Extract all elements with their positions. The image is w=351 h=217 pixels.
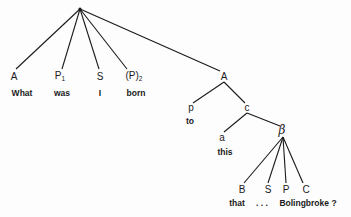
node-label-n-beta: β <box>279 124 286 136</box>
node-subscript: 1 <box>62 75 66 82</box>
word-w-that: that <box>229 199 245 208</box>
node-label-n-P2: (P)2 <box>126 71 143 83</box>
node-label-n-S1: S <box>97 72 104 82</box>
node-text: β <box>279 123 286 137</box>
node-label-n-p: p <box>188 103 194 113</box>
tree-edge <box>80 9 99 69</box>
word-w-born: born <box>127 89 146 98</box>
tree-edge <box>247 113 280 126</box>
tree-edges <box>0 0 351 217</box>
tree-edge <box>244 137 283 183</box>
word-w-to: to <box>186 117 194 126</box>
node-text: P <box>283 184 290 195</box>
node-label-n-S2: S <box>265 185 272 195</box>
node-text: P <box>55 70 62 81</box>
node-label-n-P3: P <box>283 185 290 195</box>
node-subscript: 2 <box>139 75 143 82</box>
node-text: A <box>221 71 228 82</box>
word-w-what: What <box>12 89 33 98</box>
tree-edge <box>268 137 283 183</box>
node-text: S <box>97 71 104 82</box>
tree-edge <box>193 82 224 103</box>
node-label-n-A2: A <box>221 72 228 82</box>
word-w-i: I <box>99 89 101 98</box>
node-label-n-c: c <box>245 103 250 113</box>
node-text: c <box>245 102 250 113</box>
node-label-n-A1: A <box>11 72 18 82</box>
tree-edge <box>80 9 127 69</box>
word-w-bolingbroke: Bolingbroke ? <box>279 199 336 208</box>
node-label-n-a: a <box>219 133 225 143</box>
word-w-was: was <box>54 89 70 98</box>
tree-edge <box>224 113 247 132</box>
word-w-this: this <box>217 148 232 157</box>
node-label-n-P1: P1 <box>55 71 65 83</box>
node-label-n-C: C <box>302 185 309 195</box>
node-text: C <box>302 184 309 195</box>
root-node <box>78 7 81 10</box>
node-text: a <box>219 132 225 143</box>
node-text: S <box>265 184 272 195</box>
node-text: B <box>239 184 246 195</box>
node-label-n-B: B <box>239 185 246 195</box>
node-text: (P) <box>126 70 139 81</box>
word-w-dots: . . . <box>256 199 268 208</box>
node-text: p <box>188 102 194 113</box>
tree-edge <box>224 82 245 103</box>
tree-edge <box>16 9 80 69</box>
tree-edge <box>80 9 220 71</box>
node-text: A <box>11 71 18 82</box>
syntax-tree-diagram: AP1S(P)2ApcaβBSPCWhatwasIborntothisthat.… <box>0 0 351 217</box>
